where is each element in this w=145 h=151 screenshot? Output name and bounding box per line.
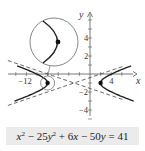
vertex-point (45, 81, 49, 85)
connector-line (48, 66, 50, 76)
eq-term: + 6 (56, 130, 73, 142)
inset-vertex-point (56, 40, 61, 45)
y-axis-label: y (78, 9, 84, 20)
eq-term: = 41 (106, 130, 129, 142)
magnifier-inset (30, 18, 78, 90)
hyperbola-branches (15, 66, 134, 101)
hyperbola-plot: xy−12442−2−4 (0, 0, 145, 120)
right-branch (101, 66, 134, 101)
eq-term: − 25 (25, 130, 48, 142)
eq-term: − 50 (78, 130, 101, 142)
equation-label: x2 − 25y2 + 6x − 50y = 41 (6, 127, 139, 145)
vertex-point (98, 81, 102, 85)
y-tick-label: −2 (79, 87, 88, 97)
inset-circle (30, 18, 78, 66)
y-tick-label: 2 (84, 51, 88, 61)
x-tick-label: −12 (18, 76, 31, 86)
x-tick-label: 4 (109, 76, 114, 86)
equation-text: x2 − 25y2 + 6x − 50y = 41 (17, 130, 129, 142)
y-tick-label: −4 (79, 105, 89, 115)
x-axis-label: x (135, 75, 141, 86)
